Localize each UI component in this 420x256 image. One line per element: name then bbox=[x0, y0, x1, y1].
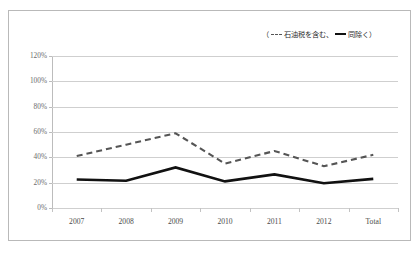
series-layer bbox=[52, 56, 398, 208]
gridline-y bbox=[52, 208, 398, 209]
series-line-petroleum-tax-included bbox=[77, 133, 374, 166]
series-line-petroleum-tax-excluded bbox=[77, 167, 374, 183]
legend-separator: 、 bbox=[326, 29, 333, 39]
x-axis-tick-label: 2010 bbox=[200, 218, 249, 226]
x-axis-tick-mark bbox=[52, 208, 53, 212]
x-axis-tick-label: 2007 bbox=[52, 218, 101, 226]
y-axis-tick-label: 80% bbox=[13, 103, 47, 110]
x-axis-tick-label: 2008 bbox=[101, 218, 150, 226]
x-axis-tick-mark bbox=[151, 208, 152, 212]
legend-open-paren: （ bbox=[262, 29, 269, 39]
x-axis-tick-label: 2009 bbox=[151, 218, 200, 226]
chart-legend: （ 石油税を含む 、 同除く ） bbox=[262, 26, 410, 42]
x-axis-tick-mark bbox=[349, 208, 350, 212]
legend-swatch-solid-icon bbox=[335, 33, 346, 35]
y-axis-tick-label: 60% bbox=[13, 128, 47, 135]
y-axis-tick-label: 120% bbox=[13, 52, 47, 59]
legend-close-paren: ） bbox=[369, 29, 376, 39]
x-axis-tick-label: 2011 bbox=[250, 218, 299, 226]
y-axis-tick-label: 0% bbox=[13, 204, 47, 211]
x-axis-tick-mark bbox=[200, 208, 201, 212]
x-axis-tick-mark bbox=[299, 208, 300, 212]
legend-swatch-dashed-icon bbox=[271, 34, 282, 35]
legend-label-petroleum-tax-included: 石油税を含む bbox=[284, 29, 326, 39]
x-axis-tick-mark bbox=[250, 208, 251, 212]
plot-area bbox=[52, 56, 398, 208]
x-axis-tick-mark bbox=[398, 208, 399, 212]
chart-canvas: （ 石油税を含む 、 同除く ） 0%20%40%60%80%100%120%2… bbox=[0, 0, 420, 256]
y-axis-tick-label: 40% bbox=[13, 153, 47, 160]
y-axis-tick-label: 100% bbox=[13, 77, 47, 84]
legend-label-petroleum-tax-excluded: 同除く bbox=[348, 29, 369, 39]
x-axis-tick-label: 2012 bbox=[299, 218, 348, 226]
x-axis-tick-label: Total bbox=[349, 218, 398, 226]
y-axis-tick-label: 20% bbox=[13, 179, 47, 186]
x-axis-tick-mark bbox=[101, 208, 102, 212]
